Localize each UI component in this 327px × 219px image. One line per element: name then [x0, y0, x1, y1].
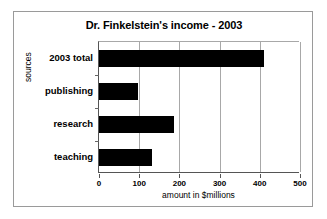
- x-axis-tick-label: 200: [159, 179, 199, 188]
- x-axis-tick-label: 500: [280, 179, 320, 188]
- x-axis-tick: [300, 174, 301, 178]
- chart-title: Dr. Finkelstein's income - 2003: [14, 19, 314, 31]
- x-axis-tick: [260, 174, 261, 178]
- y-axis-tick: [95, 108, 99, 109]
- x-axis-tick: [99, 174, 100, 178]
- x-axis-tick-label: 100: [119, 179, 159, 188]
- x-axis-tick: [220, 174, 221, 178]
- bar: [99, 83, 138, 100]
- bar: [99, 116, 174, 133]
- y-axis-category-label: publishing: [13, 85, 93, 96]
- y-axis-tick: [95, 141, 99, 142]
- x-axis-tick-label: 0: [79, 179, 119, 188]
- bar: [99, 50, 264, 67]
- chart-container: Dr. Finkelstein's income - 2003 sources …: [13, 11, 313, 207]
- x-axis-tick: [179, 174, 180, 178]
- x-axis-tick-label: 400: [240, 179, 280, 188]
- y-axis-category-label: 2003 total: [13, 52, 93, 63]
- x-axis-tick: [139, 174, 140, 178]
- plot-area: 0100200300400500: [98, 41, 299, 173]
- x-axis-tick-label: 300: [200, 179, 240, 188]
- y-axis-category-label: research: [13, 118, 93, 129]
- x-axis-title: amount in $millions: [98, 190, 299, 200]
- bar: [99, 149, 152, 166]
- y-axis-category-label: teaching: [13, 151, 93, 162]
- y-axis-tick: [95, 75, 99, 76]
- gridline-x: [300, 42, 301, 172]
